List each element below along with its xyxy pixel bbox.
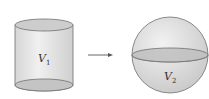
sphere-label-subscript: 2 [172,77,176,85]
arrow-right-icon [88,53,113,57]
cylinder-label-subscript: 1 [46,59,50,67]
cylinder-shape: V 1 [15,19,73,91]
volume-diagram: V 1 V 2 [0,0,209,99]
sphere-shape: V 2 [132,17,208,93]
